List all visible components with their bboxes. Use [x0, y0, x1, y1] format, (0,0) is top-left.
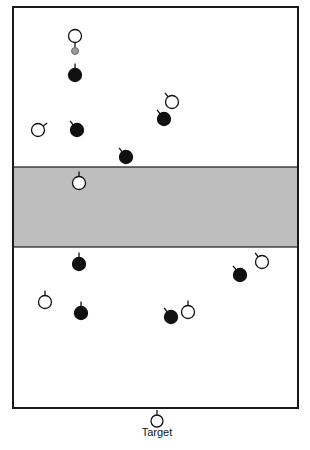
neutral-zone	[13, 167, 298, 247]
target-icon	[151, 410, 163, 427]
diagram-canvas	[0, 0, 310, 450]
target-label: Target	[137, 426, 177, 438]
ball-icon	[72, 48, 79, 55]
